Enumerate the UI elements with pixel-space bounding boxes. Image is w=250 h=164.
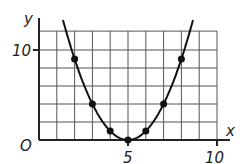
grid bbox=[39, 31, 217, 140]
x-tick-label-5: 5 bbox=[123, 149, 133, 164]
origin-label: O bbox=[20, 137, 32, 155]
parabola-chart: y x O 10 5 10 bbox=[0, 0, 250, 164]
y-tick-label-10: 10 bbox=[12, 42, 31, 60]
x-tick-label-10: 10 bbox=[205, 149, 224, 164]
y-axis-label: y bbox=[23, 10, 34, 28]
x-axis-label: x bbox=[225, 122, 235, 140]
